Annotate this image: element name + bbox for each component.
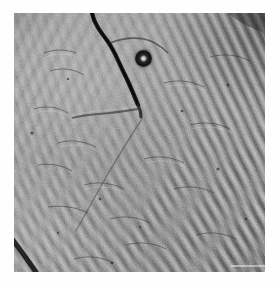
filament-group [34,50,250,263]
corner-streak [14,239,36,272]
primary-fissure-tail [138,105,141,117]
scale-bar [231,265,265,267]
corner-patch-top-right [228,13,265,39]
bead-particle-icon [135,50,152,67]
figure-page [0,0,280,282]
oblique-boundary [76,119,142,231]
primary-fissure [92,13,138,105]
highlight-filament-group [36,54,232,193]
micrograph-image [14,13,265,272]
